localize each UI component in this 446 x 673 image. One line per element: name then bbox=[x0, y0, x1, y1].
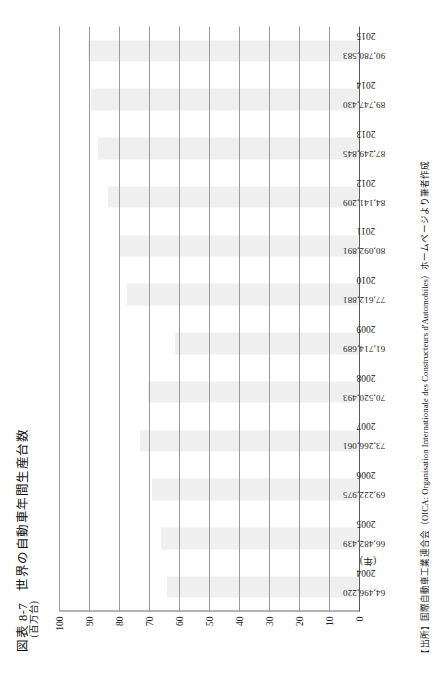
bar-2009 bbox=[175, 332, 360, 353]
gridline-10: 10 bbox=[329, 26, 330, 611]
x-axis-caption: (年) bbox=[360, 555, 376, 569]
gridline-50: 50 bbox=[209, 26, 210, 611]
y-axis-tick-10: 10 bbox=[325, 616, 335, 626]
y-axis-tick-70: 70 bbox=[145, 616, 155, 626]
x-axis-label-2005: 2005 bbox=[357, 518, 376, 528]
bar-series: 64,496,22066,482,43969,222,97573,266,061… bbox=[60, 26, 360, 611]
y-axis-unit-label: (百万台) bbox=[26, 601, 40, 637]
gridline-20: 20 bbox=[299, 26, 300, 611]
bar-slot: 84,141,209 bbox=[60, 186, 360, 207]
bar-slot: 69,222,975 bbox=[60, 478, 360, 499]
x-axis-label-2011: 2011 bbox=[357, 226, 376, 236]
bar-2012 bbox=[108, 186, 360, 207]
x-axis-label-2010: 2010 bbox=[357, 275, 376, 285]
bar-2010 bbox=[127, 283, 360, 304]
source-note: 【出所】国際自動車工業連合会（OICA: Organisation Intern… bbox=[418, 160, 430, 657]
figure-title-text: 世界の自動車年間生産台数 bbox=[16, 428, 30, 590]
x-axis-label-2008: 2008 bbox=[357, 372, 376, 382]
bar-2014 bbox=[91, 88, 360, 109]
bar-slot: 90,780,583 bbox=[60, 40, 360, 61]
y-axis-tick-60: 60 bbox=[175, 616, 185, 626]
rotated-figure-container: 図表 8-7世界の自動車年間生産台数 (百万台) 64,496,22066,48… bbox=[0, 0, 446, 673]
bar-2013 bbox=[98, 137, 360, 158]
gridline-90: 90 bbox=[89, 26, 90, 611]
bar-2007 bbox=[140, 430, 360, 451]
y-axis-tick-0: 0 bbox=[355, 616, 365, 621]
bar-slot: 87,249,845 bbox=[60, 137, 360, 158]
bar-slot: 61,714,689 bbox=[60, 332, 360, 353]
x-axis-label-2007: 2007 bbox=[357, 421, 376, 431]
bar-2005 bbox=[161, 527, 360, 548]
y-axis-tick-40: 40 bbox=[235, 616, 245, 626]
bar-2015 bbox=[88, 40, 360, 61]
bar-2004 bbox=[167, 576, 360, 597]
y-axis-tick-20: 20 bbox=[295, 616, 305, 626]
x-axis-label-2015: 2015 bbox=[357, 31, 376, 41]
plot-area: (百万台) 64,496,22066,482,43969,222,97573,2… bbox=[60, 26, 360, 611]
x-axis-label-2013: 2013 bbox=[357, 128, 376, 138]
x-axis-label-2012: 2012 bbox=[357, 177, 376, 187]
x-axis-label-2009: 2009 bbox=[357, 323, 376, 333]
y-axis-tick-50: 50 bbox=[205, 616, 215, 626]
gridline-30: 30 bbox=[269, 26, 270, 611]
bar-slot: 70,520,493 bbox=[60, 381, 360, 402]
bar-slot: 89,747,430 bbox=[60, 88, 360, 109]
y-axis-tick-100: 100 bbox=[55, 616, 65, 630]
y-axis-tick-90: 90 bbox=[85, 616, 95, 626]
figure-page: 図表 8-7世界の自動車年間生産台数 (百万台) 64,496,22066,48… bbox=[0, 0, 446, 673]
y-axis-tick-80: 80 bbox=[115, 616, 125, 626]
gridline-70: 70 bbox=[149, 26, 150, 611]
gridline-40: 40 bbox=[239, 26, 240, 611]
bar-chart-figure: 図表 8-7世界の自動車年間生産台数 (百万台) 64,496,22066,48… bbox=[0, 0, 446, 673]
gridline-60: 60 bbox=[179, 26, 180, 611]
x-axis-label-2004: 2004 bbox=[357, 567, 376, 577]
y-axis-tick-30: 30 bbox=[265, 616, 275, 626]
bar-slot: 64,496,220 bbox=[60, 576, 360, 597]
x-axis-label-2006: 2006 bbox=[357, 470, 376, 480]
gridline-100: 100 bbox=[59, 26, 60, 611]
bar-slot: 66,482,439 bbox=[60, 527, 360, 548]
gridline-80: 80 bbox=[119, 26, 120, 611]
bar-slot: 80,092,891 bbox=[60, 235, 360, 256]
x-axis-label-2014: 2014 bbox=[357, 80, 376, 90]
bar-slot: 77,612,881 bbox=[60, 283, 360, 304]
bar-slot: 73,266,061 bbox=[60, 430, 360, 451]
